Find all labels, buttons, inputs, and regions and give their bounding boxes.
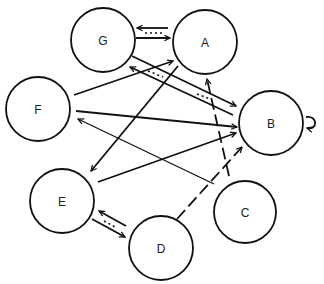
node-label-A: A xyxy=(201,36,209,50)
nodes-layer: G A F B E C D xyxy=(6,8,303,280)
node-label-G: G xyxy=(98,34,107,48)
edge-A-to-E xyxy=(91,66,178,171)
node-A: A xyxy=(173,10,237,74)
edge-F-to-B xyxy=(76,111,237,127)
node-C: C xyxy=(214,181,276,243)
node-E: E xyxy=(30,169,94,233)
edge-C-to-F xyxy=(78,119,214,184)
node-label-C: C xyxy=(241,206,250,220)
node-G: G xyxy=(71,8,135,72)
node-F: F xyxy=(6,77,70,141)
node-label-B: B xyxy=(267,117,275,131)
node-label-D: D xyxy=(157,242,166,256)
edge-B-to-G xyxy=(130,67,233,115)
edge-E-to-B xyxy=(98,133,236,182)
edge-B-self-loop xyxy=(306,117,315,129)
node-label-E: E xyxy=(58,195,66,209)
node-B: B xyxy=(239,91,303,155)
graph-diagram: G A F B E C D xyxy=(0,0,324,284)
edge-D-to-E xyxy=(99,211,126,226)
node-D: D xyxy=(129,216,193,280)
node-label-F: F xyxy=(34,103,41,117)
